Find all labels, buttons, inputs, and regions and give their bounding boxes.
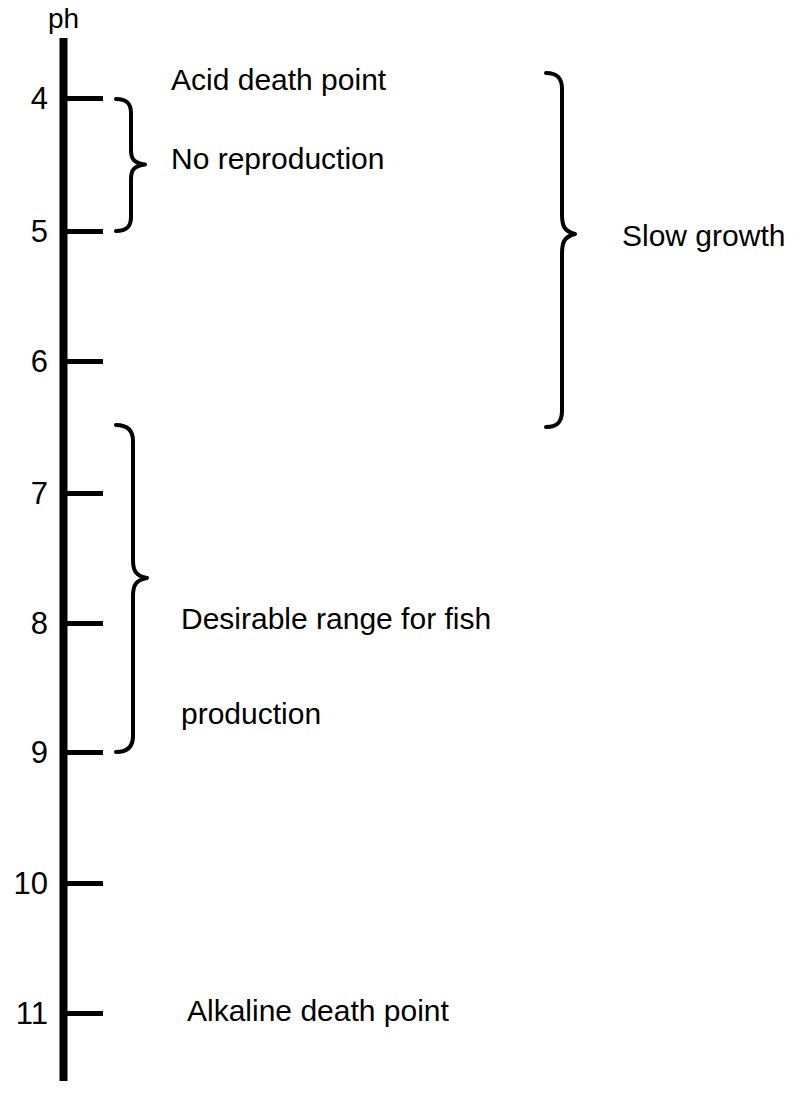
tick-label-7: 7 [2,478,48,511]
annotation-no-reproduction: No reproduction [171,143,384,175]
tick-label-9: 9 [2,737,48,770]
brace-no-reproduction [116,99,145,231]
annotation-slow-growth: Slow growth [622,220,785,252]
annotation-acid-death-point: Acid death point [171,64,386,96]
brace-slow-growth [546,73,575,427]
tick-label-11: 11 [2,998,48,1031]
tick-label-5: 5 [2,216,48,249]
annotation-desirable-range-line2: production [181,698,491,730]
tick-label-6: 6 [2,346,48,379]
axis-title-ph: ph [48,4,79,34]
annotation-alkaline-death-point: Alkaline death point [187,995,449,1027]
tick-label-4: 4 [2,83,48,116]
annotation-desirable-range-line1: Desirable range for fish [181,603,491,635]
annotation-desirable-range: Desirable range for fish production [181,539,491,793]
tick-label-10: 10 [2,868,48,901]
ph-scale-diagram: ph 4 5 6 7 8 9 10 11 Acid death point No… [0,0,803,1093]
brace-desirable-range [116,425,147,752]
tick-label-8: 8 [2,608,48,641]
